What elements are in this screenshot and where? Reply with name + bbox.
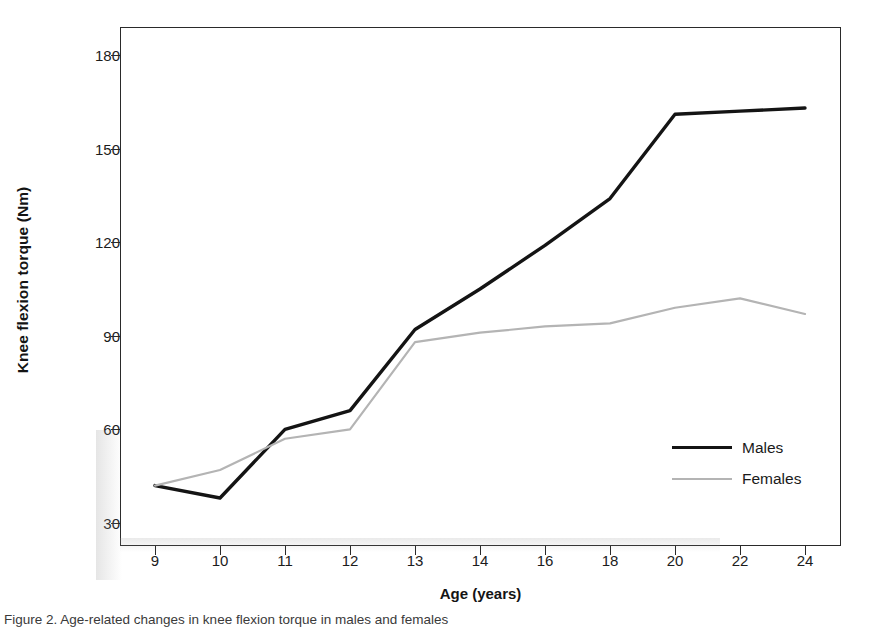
chart-legend: Males Females (672, 432, 832, 494)
x-axis-title: Age (years) (120, 585, 841, 602)
legend-line-males-icon (672, 446, 732, 449)
legend-label-females: Females (742, 470, 801, 488)
x-tick-mark (610, 546, 611, 555)
figure-caption: Figure 2. Age-related changes in knee fl… (4, 612, 724, 627)
legend-item-males: Males (672, 432, 832, 463)
x-tick-mark (285, 546, 286, 555)
x-tick-mark (675, 546, 676, 555)
x-tick-mark (220, 546, 221, 555)
legend-item-females: Females (672, 463, 832, 494)
x-tick-mark (155, 546, 156, 555)
legend-label-males: Males (742, 439, 783, 457)
legend-line-females-icon (672, 478, 732, 480)
x-tick-mark (545, 546, 546, 555)
x-tick-mark (805, 546, 806, 555)
x-tick-mark (480, 546, 481, 555)
x-tick-mark (740, 546, 741, 555)
x-tick-mark (415, 546, 416, 555)
figure-root: Knee flexion torque (Nm) 306090120150180… (0, 0, 870, 630)
x-tick-mark (350, 546, 351, 555)
x-axis-ticks: 910111213141618202224 (0, 0, 870, 630)
